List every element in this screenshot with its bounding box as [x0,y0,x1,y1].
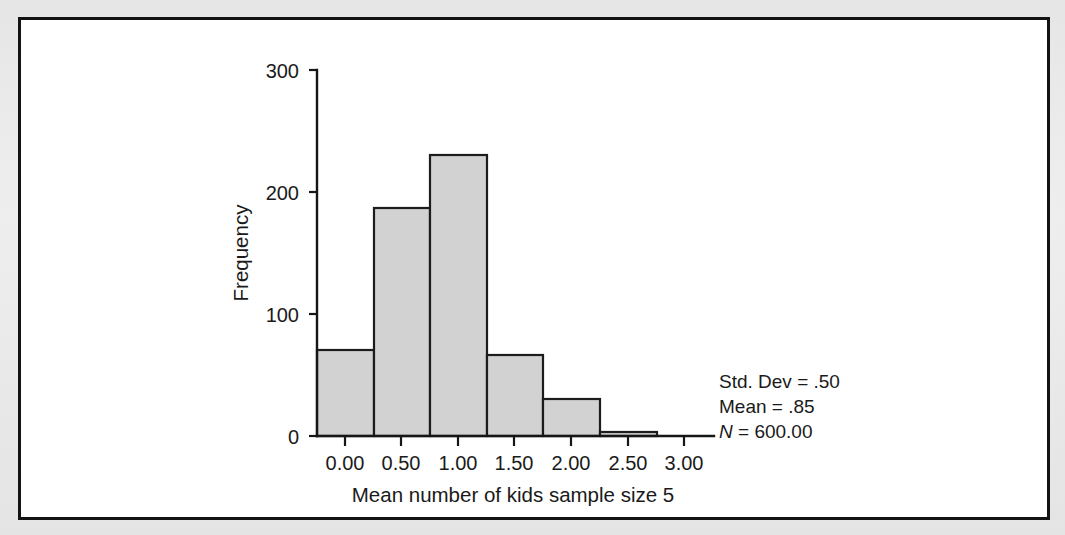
y-axis-title: Frequency [229,204,252,302]
bar-2 [430,155,487,436]
stats-n: N = 600.00 [719,421,813,442]
y-tick-label-300: 300 [266,60,299,82]
x-tick-label-0: 0.00 [326,452,365,474]
stats-n-value: = 600.00 [733,421,813,442]
histogram-plot: 300 200 100 0 0.00 0.50 1.00 1.50 2.00 2… [21,20,1053,523]
x-ticks [345,436,684,446]
y-tick-label-0: 0 [288,426,299,448]
stats-annotation: Std. Dev = .50 Mean = .85 N = 600.00 [719,371,840,442]
y-tick-label-200: 200 [266,182,299,204]
stats-mean: Mean = .85 [719,396,815,417]
y-tick-label-100: 100 [266,304,299,326]
bars-group [317,155,657,436]
bar-3 [487,355,543,436]
x-tick-label-2: 1.00 [439,452,478,474]
x-tick-label-6: 3.00 [665,452,704,474]
x-tick-label-5: 2.50 [609,452,648,474]
stats-n-symbol: N [719,421,733,442]
histogram-svg: 300 200 100 0 0.00 0.50 1.00 1.50 2.00 2… [21,20,1053,523]
x-axis-title: Mean number of kids sample size 5 [352,483,674,506]
figure-frame: 300 200 100 0 0.00 0.50 1.00 1.50 2.00 2… [18,17,1050,520]
x-tick-label-4: 2.00 [552,452,591,474]
bar-0 [317,350,374,436]
bar-1 [374,208,430,436]
stats-std-dev: Std. Dev = .50 [719,371,840,392]
x-tick-label-1: 0.50 [382,452,421,474]
bar-4 [543,399,600,436]
x-tick-label-3: 1.50 [495,452,534,474]
